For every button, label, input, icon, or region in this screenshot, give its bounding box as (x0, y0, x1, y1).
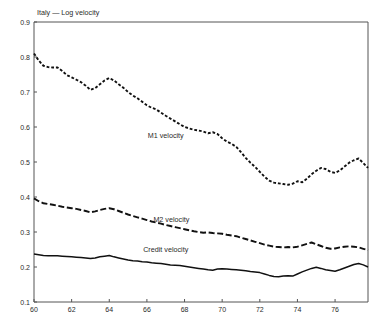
x-tick-label: 62 (68, 306, 76, 313)
x-tick-label: 66 (143, 306, 151, 313)
x-tick-label: 70 (218, 306, 226, 313)
chart-title: Italy — Log velocity (37, 8, 100, 17)
chart-background (0, 0, 384, 330)
x-tick-label: 64 (105, 306, 113, 313)
series-label-credit-velocity: Credit velocity (143, 245, 189, 254)
y-tick-label: 0.2 (20, 264, 30, 271)
y-tick-label: 0.5 (20, 159, 30, 166)
y-tick-label: 0.9 (20, 19, 30, 26)
chart-container: 0.10.20.30.40.50.60.70.80.9 606264666870… (0, 0, 384, 330)
x-tick-label: 76 (331, 306, 339, 313)
y-tick-label: 0.7 (20, 89, 30, 96)
x-tick-label: 72 (256, 306, 264, 313)
y-tick-label: 0.8 (20, 54, 30, 61)
series-label-m2-velocity: M2 velocity (153, 215, 189, 224)
y-tick-label: 0.4 (20, 194, 30, 201)
y-tick-label: 0.6 (20, 124, 30, 131)
x-tick-label: 60 (30, 306, 38, 313)
x-tick-label: 68 (181, 306, 189, 313)
series-label-m1-velocity: M1 velocity (148, 131, 184, 140)
log-velocity-line-chart: 0.10.20.30.40.50.60.70.80.9 606264666870… (0, 0, 384, 330)
x-tick-label: 74 (294, 306, 302, 313)
y-tick-label: 0.3 (20, 229, 30, 236)
y-tick-label: 0.1 (20, 299, 30, 306)
